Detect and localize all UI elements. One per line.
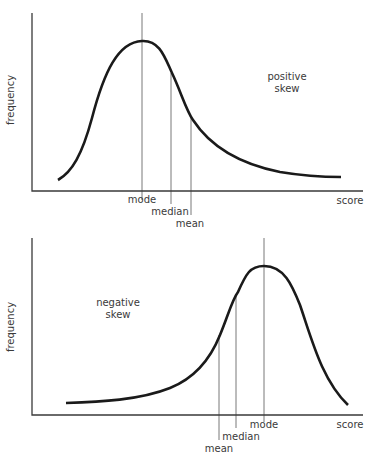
top-mode-label: mode — [128, 194, 156, 205]
bottom-mode-label: mode — [250, 419, 278, 430]
bottom-median-label: median — [222, 431, 260, 442]
top-axes — [32, 13, 363, 191]
bottom-axes — [32, 238, 363, 415]
top-median-label: median — [151, 206, 189, 217]
positive-skew-label-line1: positive — [267, 71, 306, 82]
positive-skew-curve — [58, 41, 341, 180]
bottom-y-axis-label: frequency — [5, 302, 16, 352]
negative-skew-curve — [66, 266, 348, 405]
skew-diagram: frequency mode median mean score positiv… — [0, 0, 379, 466]
bottom-x-axis-label: score — [337, 419, 364, 430]
top-mean-label: mean — [176, 218, 204, 229]
positive-skew-label-line2: skew — [275, 83, 300, 94]
top-y-axis-label: frequency — [5, 75, 16, 125]
bottom-mean-label: mean — [205, 443, 233, 454]
negative-skew-label-line1: negative — [96, 297, 140, 308]
top-x-axis-label: score — [337, 195, 364, 206]
negative-skew-label-line2: skew — [106, 309, 131, 320]
positive-skew-chart: frequency mode median mean score positiv… — [5, 13, 363, 229]
negative-skew-chart: frequency mode median mean score negativ… — [5, 238, 363, 454]
